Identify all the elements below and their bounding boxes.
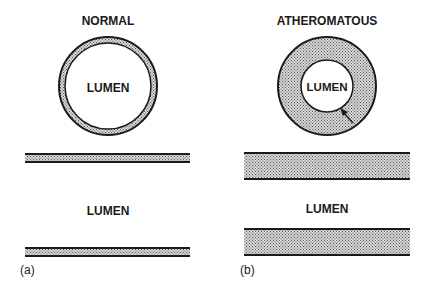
atheromatous-lumen-label: LUMEN <box>307 81 348 93</box>
panel-b-atheromatous: ATHEROMATOUS LUMEN LUMEN (b) <box>240 14 410 277</box>
atheromatous-lower-wall <box>244 229 410 255</box>
normal-lower-wall <box>25 248 190 256</box>
artery-diagram: NORMAL LUMEN LUMEN (a) ATHEROMATOUS LUME… <box>0 0 427 296</box>
normal-title: NORMAL <box>82 14 135 28</box>
normal-lumen-label: LUMEN <box>87 81 130 95</box>
panel-b-label: (b) <box>240 263 255 277</box>
atheromatous-longitudinal-section: LUMEN <box>244 153 410 255</box>
atheromatous-title: ATHEROMATOUS <box>277 14 378 28</box>
normal-longitudinal-section: LUMEN <box>25 154 190 256</box>
panel-a-normal: NORMAL LUMEN LUMEN (a) <box>20 14 190 277</box>
normal-upper-wall <box>25 154 190 162</box>
atheromatous-upper-wall <box>244 153 410 179</box>
normal-cross-section: LUMEN <box>59 37 157 135</box>
atheromatous-longitudinal-lumen-label: LUMEN <box>306 202 349 216</box>
atheromatous-cross-section: LUMEN <box>278 37 376 135</box>
panel-a-label: (a) <box>20 263 35 277</box>
normal-longitudinal-lumen-label: LUMEN <box>87 204 130 218</box>
